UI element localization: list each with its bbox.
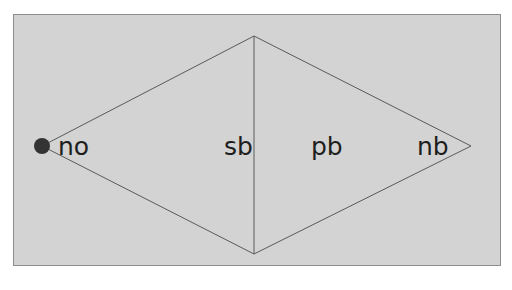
rhombus-edges [42,36,471,254]
label-no: no [58,132,89,161]
edge-bottom-to-left [42,146,254,254]
diagram-canvas: no sb pb nb [0,0,512,290]
label-nb: nb [417,132,449,161]
edge-left-to-top [42,36,254,146]
edge-right-to-bottom [254,146,471,254]
label-sb: sb [224,132,253,161]
rhombus-diagram: no sb pb nb [0,0,512,290]
label-pb: pb [311,132,343,161]
edge-top-to-right [254,36,471,146]
start-node-dot-icon [34,138,50,154]
